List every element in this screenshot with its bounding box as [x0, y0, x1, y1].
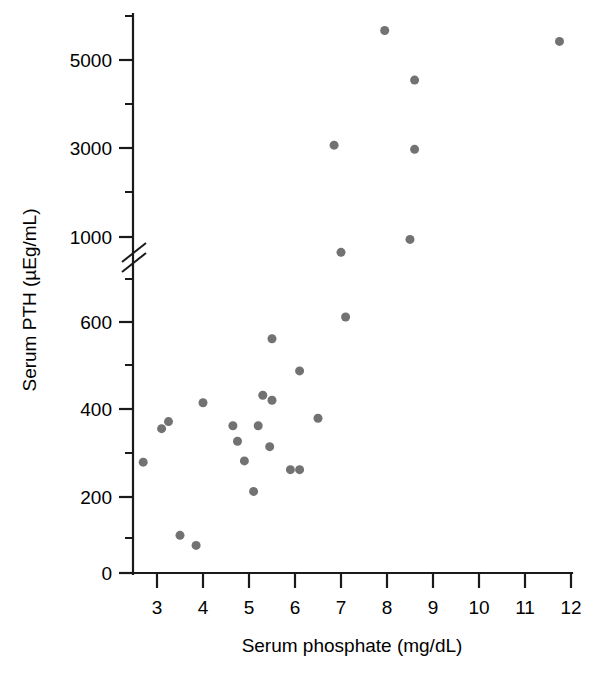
x-tick-group: [157, 573, 571, 588]
data-point: [265, 442, 274, 451]
x-axis-title: Serum phosphate (mg/dL): [242, 635, 463, 656]
data-point: [555, 37, 564, 46]
data-point: [157, 424, 166, 433]
x-axis: 3456789101112 Serum phosphate (mg/dL): [133, 573, 582, 656]
data-point: [254, 421, 263, 430]
y-tick-label-5000: 5000: [70, 50, 112, 71]
data-point: [258, 391, 267, 400]
data-point: [192, 541, 201, 550]
x-tick-label-9: 9: [428, 597, 439, 618]
x-tick-label-group: 3456789101112: [152, 597, 582, 618]
data-point: [228, 421, 237, 430]
x-tick-label-4: 4: [198, 597, 209, 618]
x-tick-label-7: 7: [336, 597, 347, 618]
data-point: [233, 437, 242, 446]
data-point: [337, 248, 346, 257]
data-point: [268, 334, 277, 343]
x-tick-label-5: 5: [244, 597, 255, 618]
x-tick-label-8: 8: [382, 597, 393, 618]
data-point: [295, 465, 304, 474]
y-tick-label-400: 400: [80, 399, 112, 420]
data-point: [268, 396, 277, 405]
y-tick-label-1000: 1000: [70, 227, 112, 248]
data-point: [295, 366, 304, 375]
x-tick-label-3: 3: [152, 597, 163, 618]
data-point: [406, 235, 415, 244]
y-tick-label-200: 200: [80, 487, 112, 508]
x-tick-label-12: 12: [560, 597, 581, 618]
y-axis: 5000 3000 1000 600 400 200 0 Serum PTH (…: [19, 14, 146, 584]
data-point: [176, 531, 185, 540]
x-tick-label-11: 11: [515, 597, 535, 618]
data-point: [240, 456, 249, 465]
data-point: [380, 26, 389, 35]
y-tick-label-0: 0: [101, 563, 112, 584]
data-point-group: [139, 26, 564, 550]
data-point: [249, 487, 258, 496]
y-axis-title: Serum PTH (µEg/mL): [19, 208, 40, 391]
x-tick-label-10: 10: [468, 597, 489, 618]
data-point: [286, 465, 295, 474]
data-point: [341, 312, 350, 321]
x-tick-label-6: 6: [290, 597, 301, 618]
data-point: [139, 458, 148, 467]
data-point: [314, 414, 323, 423]
data-point: [330, 141, 339, 150]
data-point: [410, 145, 419, 154]
scatter-plot-figure: 5000 3000 1000 600 400 200 0 Serum PTH (…: [0, 0, 601, 678]
y-tick-label-600: 600: [80, 312, 112, 333]
data-point: [199, 398, 208, 407]
data-point: [410, 76, 419, 85]
chart-canvas: 5000 3000 1000 600 400 200 0 Serum PTH (…: [0, 0, 601, 678]
data-point: [164, 417, 173, 426]
y-tick-label-3000: 3000: [70, 138, 112, 159]
